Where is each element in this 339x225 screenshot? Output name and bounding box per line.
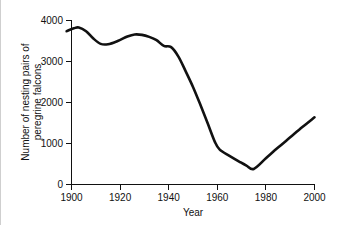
y-axis-title-line2: peregrine falcons [32, 64, 43, 141]
y-tick-label-0: 0 [57, 179, 63, 190]
x-tick-label-1960: 1960 [206, 192, 229, 203]
x-axis-title: Year [183, 207, 204, 218]
x-tick-label-1940: 1940 [158, 192, 181, 203]
x-tick-label-1900: 1900 [60, 192, 83, 203]
y-tick-label-1000: 1000 [41, 138, 64, 149]
x-tick-label-1980: 1980 [255, 192, 278, 203]
y-tick-label-3000: 3000 [41, 56, 64, 67]
y-tick-label-4000: 4000 [41, 15, 64, 26]
chart-screenshot: 0 1000 2000 3000 4000 1900 1920 1940 196… [0, 0, 339, 225]
falcon-population-line-chart: 0 1000 2000 3000 4000 1900 1920 1940 196… [1, 0, 339, 225]
y-tick-label-2000: 2000 [41, 97, 64, 108]
x-tick-label-1920: 1920 [109, 192, 132, 203]
y-axis-title-line1: Number of nesting pairs of [20, 43, 31, 161]
x-tick-label-2000: 2000 [303, 192, 326, 203]
